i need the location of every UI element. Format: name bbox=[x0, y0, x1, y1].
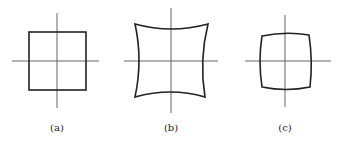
pincushion-shape bbox=[135, 24, 208, 97]
distortion-figure: (a) (b) (c) bbox=[0, 0, 339, 142]
panel-label-a: (a) bbox=[50, 122, 64, 133]
panel-a: (a) bbox=[12, 13, 99, 133]
panel-b: (b) bbox=[124, 8, 218, 133]
panel-c: (c) bbox=[245, 15, 331, 133]
panel-label-b: (b) bbox=[164, 122, 178, 133]
panel-label-c: (c) bbox=[278, 122, 292, 133]
